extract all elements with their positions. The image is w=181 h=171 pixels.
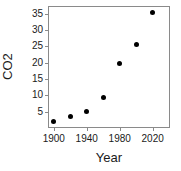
x-tick-label: 1940 [76,133,98,145]
y-tick-label: 35 [32,7,43,20]
x-tick-mark [54,128,55,131]
plot-area [48,6,170,128]
data-point [101,95,106,100]
x-tick-label: 1900 [43,133,65,145]
y-tick-label: 25 [32,39,43,52]
data-point [68,114,73,119]
y-tick-label: 5 [37,105,43,118]
y-tick-label: 10 [32,88,43,101]
x-tick-label: 2020 [142,133,164,145]
y-tick-label: 20 [32,56,43,69]
data-point [150,10,155,15]
x-tick-label: 1980 [109,133,131,145]
x-axis-title: Year [48,150,170,165]
x-tick-mark [87,128,88,131]
y-tick-label: 30 [32,23,43,36]
y-tick-label: 15 [32,72,43,85]
x-tick-mark [120,128,121,131]
x-tick-mark [153,128,154,131]
scatter-chart: CO2 5101520253035 1900194019802020 Year [0,0,181,171]
